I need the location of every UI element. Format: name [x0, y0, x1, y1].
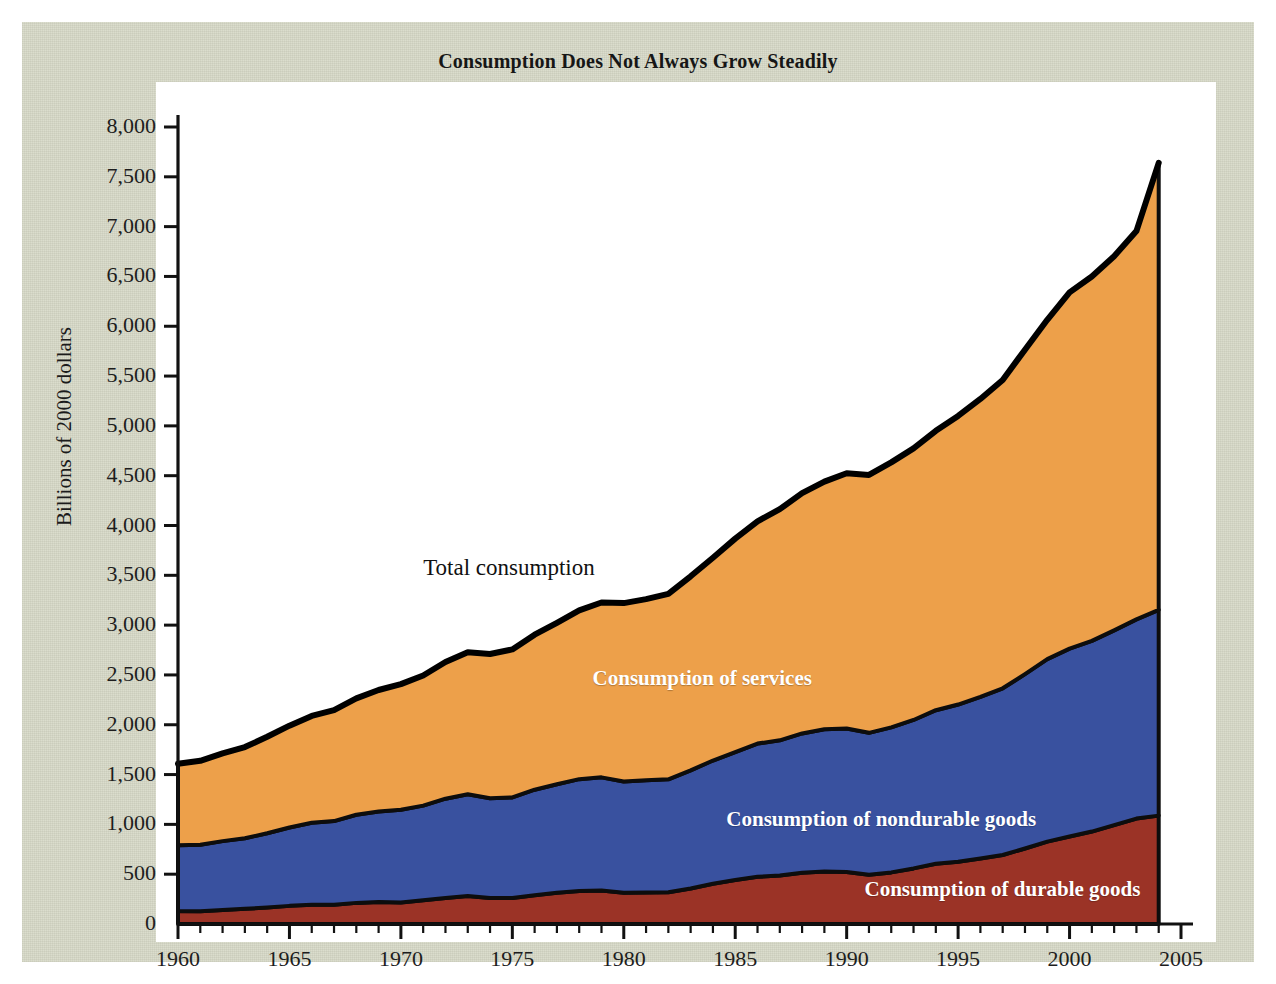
y-tick-label: 7,500: [107, 163, 157, 189]
figure-root: Consumption Does Not Always Grow Steadil…: [0, 0, 1276, 984]
x-tick-label: 1970: [356, 946, 446, 972]
x-tick-label: 2000: [1025, 946, 1115, 972]
y-tick-label: 4,500: [107, 462, 157, 488]
x-tick-label: 2005: [1136, 946, 1226, 972]
y-tick-label: 2,500: [107, 661, 157, 687]
x-tick-label: 1980: [579, 946, 669, 972]
y-tick-label: 1,000: [107, 810, 157, 836]
annotation-consumption-durable-goods: Consumption of durable goods: [864, 877, 1140, 902]
y-tick-label: 6,000: [107, 312, 157, 338]
x-tick-label: 1975: [467, 946, 557, 972]
y-tick-label: 4,000: [107, 512, 157, 538]
plot-area: 05001,0001,5002,0002,5003,0003,5004,0004…: [156, 82, 1216, 942]
chart-title: Consumption Does Not Always Grow Steadil…: [22, 50, 1254, 73]
chart-svg: [156, 82, 1216, 942]
y-tick-label: 3,000: [107, 611, 157, 637]
annotation-consumption-nondurable-goods: Consumption of nondurable goods: [726, 807, 1036, 832]
x-tick-label: 1965: [244, 946, 334, 972]
chart-panel: Consumption Does Not Always Grow Steadil…: [22, 22, 1254, 962]
annotation-total-consumption: Total consumption: [423, 555, 595, 581]
x-tick-label: 1985: [690, 946, 780, 972]
x-tick-label: 1960: [133, 946, 223, 972]
y-tick-label: 500: [123, 860, 156, 886]
y-tick-label: 5,500: [107, 362, 157, 388]
y-tick-label: 2,000: [107, 711, 157, 737]
y-axis-title: Billions of 2000 dollars: [52, 297, 77, 557]
x-tick-label: 1990: [802, 946, 892, 972]
x-tick-label: 1995: [913, 946, 1003, 972]
y-tick-label: 7,000: [107, 213, 157, 239]
y-tick-label: 1,500: [107, 761, 157, 787]
y-tick-label: 0: [145, 910, 156, 936]
y-tick-label: 8,000: [107, 113, 157, 139]
annotation-consumption-services: Consumption of services: [593, 666, 812, 691]
y-tick-label: 5,000: [107, 412, 157, 438]
y-tick-label: 3,500: [107, 561, 157, 587]
y-tick-label: 6,500: [107, 262, 157, 288]
